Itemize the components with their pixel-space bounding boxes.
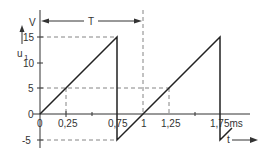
xtick-175: 1,75ms (210, 118, 243, 129)
u-arrow-head (20, 25, 25, 32)
period-label: T (88, 16, 94, 27)
period-arrow-right (134, 19, 142, 24)
ytick-10: 10 (23, 58, 35, 69)
ytick-5: 5 (28, 83, 34, 94)
sawtooth-diagram: t u 1 V T 15 10 5 0 -5 0 0,25 0,75 1 1,2… (0, 0, 271, 153)
t-arrow-head (250, 137, 258, 143)
ytick-15: 15 (23, 32, 35, 43)
y-axis-label: u (17, 48, 23, 59)
ytick-neg5: -5 (22, 135, 31, 146)
x-axis-label: t (227, 134, 230, 145)
xtick-125: 1,25 (161, 118, 181, 129)
y-unit: V (29, 17, 36, 28)
xtick-0: 0 (37, 118, 43, 129)
period-arrow-left (41, 19, 49, 24)
ytick-0: 0 (28, 109, 34, 120)
xtick-1: 1 (141, 118, 147, 129)
xtick-025: 0,25 (58, 118, 78, 129)
xtick-075: 0,75 (108, 118, 128, 129)
